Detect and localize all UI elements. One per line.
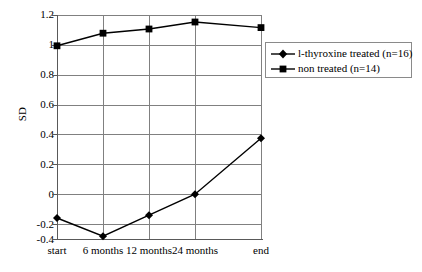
series-non-treated-markers bbox=[54, 19, 265, 50]
y-tick-label-1: 1 bbox=[8, 39, 54, 50]
x-tick-label-6-months: 6 months bbox=[83, 244, 124, 256]
x-tick-label-12-months: 12 months bbox=[126, 244, 172, 256]
x-axis-line bbox=[57, 239, 263, 240]
data-point bbox=[146, 26, 153, 33]
data-point bbox=[54, 42, 61, 49]
y-tick-label-0.6: 0.6 bbox=[8, 99, 54, 110]
series-l-thyroxine-treated-markers bbox=[53, 134, 265, 240]
legend-item-l-thyroxine-treated: l-thyroxine treated (n=16) bbox=[270, 46, 407, 61]
series-l-thyroxine-treated-line bbox=[57, 138, 261, 236]
x-tick-label-start: start bbox=[48, 244, 67, 256]
data-point bbox=[145, 211, 153, 219]
legend-item-non-treated: non treated (n=14) bbox=[270, 61, 407, 76]
series-layer bbox=[57, 15, 262, 239]
x-tick-label-24-months: 24 months bbox=[172, 244, 218, 256]
y-tick-label-0.2: 0.2 bbox=[8, 159, 54, 170]
series-non-treated-line bbox=[57, 22, 261, 46]
data-point bbox=[258, 24, 265, 31]
legend-label-non-treated: non treated (n=14) bbox=[296, 62, 380, 75]
y-tick-label-1.2: 1.2 bbox=[8, 9, 54, 20]
x-tick-label-end: end bbox=[253, 244, 269, 256]
y-tick-label-0: 0 bbox=[8, 189, 54, 200]
square-marker-icon bbox=[270, 62, 296, 76]
y-tick-label-0.8: 0.8 bbox=[8, 69, 54, 80]
data-point bbox=[192, 19, 199, 26]
y-tick-label-0.4: 0.4 bbox=[8, 129, 54, 140]
line-chart: SD 1.2 1 0.8 0.6 0.4 0.2 0 -0.2 -0.4 bbox=[0, 0, 422, 272]
legend-label-l-thyroxine-treated: l-thyroxine treated (n=16) bbox=[296, 47, 412, 60]
y-tick-label--0.2: -0.2 bbox=[8, 219, 54, 230]
diamond-marker-icon bbox=[270, 47, 296, 61]
data-point bbox=[53, 214, 61, 222]
data-point bbox=[100, 30, 107, 37]
chart-legend: l-thyroxine treated (n=16) non treated (… bbox=[265, 42, 412, 78]
y-axis-tick-labels: 1.2 1 0.8 0.6 0.4 0.2 0 -0.2 -0.4 bbox=[6, 0, 54, 272]
